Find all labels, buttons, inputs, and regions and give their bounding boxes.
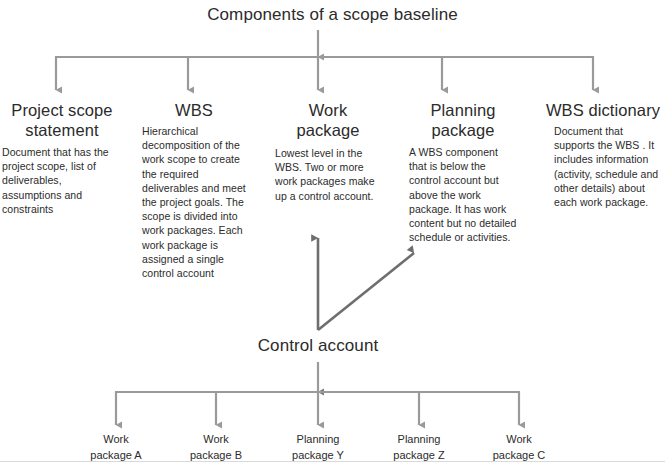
scope-baseline-diagram: Components of a scope baseline Project s…: [0, 0, 665, 472]
node-heading: Project scope statement: [2, 100, 122, 140]
leaf-work-package-a: Work package A: [64, 431, 168, 463]
node-heading: Work package: [275, 100, 381, 140]
leaf-line-1: Planning: [367, 431, 471, 447]
leaf-planning-package-z: Planning package Z: [367, 431, 471, 463]
leaf-line-1: Work: [64, 431, 168, 447]
leaf-work-package-c: Work package C: [467, 431, 571, 463]
node-body: Document that has the project scope, lis…: [2, 145, 122, 216]
control-to-planning-package-arrow: [318, 253, 414, 330]
leaf-line-1: Work: [467, 431, 571, 447]
leaf-planning-package-y: Planning package Y: [266, 431, 370, 463]
node-heading: Planning package: [409, 100, 517, 140]
node-control-account: Control account: [195, 335, 441, 357]
node-wbs: WBS Hierarchical decomposition of the wo…: [142, 100, 246, 280]
node-project-scope-statement: Project scope statement Document that ha…: [2, 100, 122, 216]
diagram-title: Components of a scope baseline: [0, 4, 665, 25]
leaf-line-1: Work: [164, 431, 268, 447]
node-body: Hierarchical decomposition of the work s…: [142, 124, 246, 280]
page-footer-rule: [0, 461, 665, 462]
leaf-line-1: Planning: [266, 431, 370, 447]
node-planning-package: Planning package A WBS component that is…: [409, 100, 517, 244]
node-wbs-dictionary: WBS dictionary Document that supports th…: [545, 100, 661, 209]
node-body: A WBS component that is below the contro…: [409, 145, 517, 244]
connector-lines: [0, 0, 665, 472]
node-body: Document that supports the WBS . It incl…: [545, 124, 661, 209]
node-heading: WBS dictionary: [545, 100, 661, 120]
bottom-branch-arrows: [116, 392, 519, 425]
node-work-package: Work package Lowest level in the WBS. Tw…: [275, 100, 381, 203]
node-heading: WBS: [142, 100, 246, 120]
node-body: Lowest level in the WBS. Two or more wor…: [275, 146, 381, 203]
top-branch-arrows: [56, 57, 593, 90]
leaf-work-package-b: Work package B: [164, 431, 268, 463]
